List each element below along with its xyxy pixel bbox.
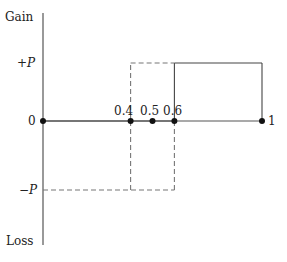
plus-p-label: +P: [17, 56, 36, 70]
point-dot-0.5: [150, 118, 156, 124]
point-dot-1: [259, 118, 265, 124]
point-dot-0.4: [128, 118, 134, 124]
payoff-diagram: Gain Loss +P 0 −P 0.4 0.5 0.6 1: [0, 0, 287, 262]
point-label-0.6: 0.6: [163, 104, 182, 118]
gain-label: Gain: [5, 10, 34, 24]
point-dot-0: [40, 118, 46, 124]
point-dot-0.6: [171, 118, 177, 124]
point-label-0.5: 0.5: [140, 104, 159, 118]
loss-label: Loss: [6, 234, 34, 248]
minus-p-label: −P: [19, 183, 38, 197]
dashed-payoff-line: [43, 63, 174, 190]
zero-level-label: 0: [28, 114, 36, 128]
point-label-0.4: 0.4: [114, 104, 133, 118]
point-label-1: 1: [268, 114, 276, 128]
